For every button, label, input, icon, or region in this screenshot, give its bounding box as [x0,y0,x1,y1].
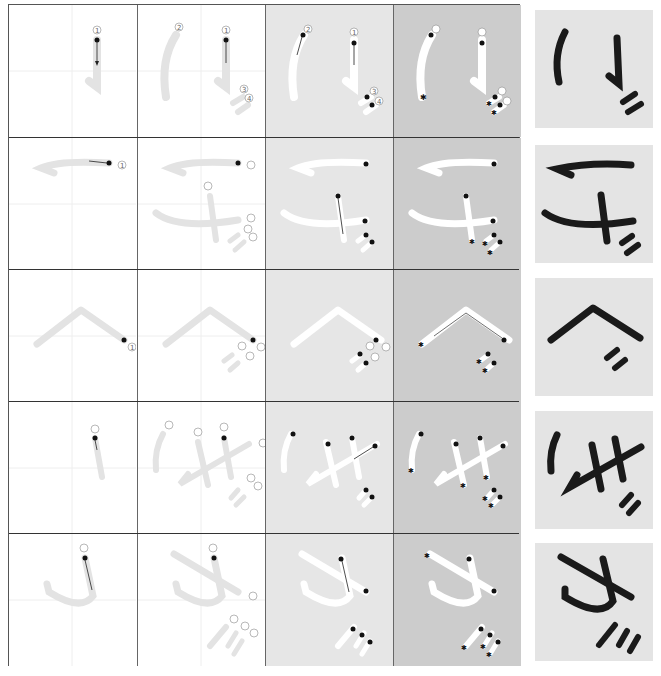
svg-text:3: 3 [372,88,376,96]
cell-end-marked-guide: ✱✱✱ [393,5,521,137]
svg-text:✱: ✱ [418,341,424,349]
cell-end-marked-guide: ✱✱✱ [393,270,521,402]
cell-first-stroke: 1 [9,270,137,402]
svg-text:1: 1 [352,29,356,37]
cell-direction-guide [265,138,393,270]
svg-text:✱: ✱ [408,467,414,475]
char-row-3: 1 ✱✱✱ [9,269,519,401]
cell-direction-guide: 2 1 3 4 [265,5,393,137]
final-character-1 [535,10,653,128]
svg-text:✱: ✱ [488,502,494,510]
cell-all-strokes [137,402,265,534]
svg-text:2: 2 [177,24,181,32]
stroke-order-grid: 1 1 2 3 4 2 1 [8,4,520,666]
svg-text:✱: ✱ [482,367,488,375]
cell-direction-guide [265,270,393,402]
svg-text:2: 2 [306,26,310,34]
cell-first-stroke [9,402,137,534]
cell-direction-guide [265,534,393,666]
cell-all-strokes [137,138,265,270]
svg-text:✱: ✱ [483,474,489,482]
svg-text:✱: ✱ [487,249,493,257]
cell-end-marked-guide: ✱✱✱✱ [393,534,521,666]
svg-text:✱: ✱ [424,552,430,560]
cell-end-marked-guide: ✱✱✱ [393,138,521,270]
char-row-5: ✱✱✱✱ [9,533,519,665]
cell-direction-guide [265,402,393,534]
svg-text:1: 1 [95,27,99,35]
svg-text:✱: ✱ [420,93,427,102]
char-row-2: 1 [9,137,519,269]
cell-first-stroke: 1 [9,138,137,270]
cell-first-stroke: 1 [9,5,137,137]
svg-text:✱: ✱ [482,240,488,248]
svg-text:✱: ✱ [476,358,482,366]
svg-text:4: 4 [247,95,252,103]
svg-text:✱: ✱ [486,100,492,108]
svg-text:1: 1 [130,344,134,352]
svg-text:✱: ✱ [469,238,475,246]
final-character-4 [535,411,653,529]
svg-text:1: 1 [120,162,124,170]
char-row-1: 1 1 2 3 4 2 1 [9,5,519,137]
svg-text:3: 3 [242,86,246,94]
svg-text:1: 1 [224,27,228,35]
cell-all-strokes: 1 2 3 4 [137,5,265,137]
svg-text:✱: ✱ [486,651,492,659]
svg-text:✱: ✱ [491,109,497,117]
svg-text:✱: ✱ [461,644,467,652]
char-row-4: ✱✱✱✱✱ [9,401,519,533]
cell-first-stroke [9,534,137,666]
cell-end-marked-guide: ✱✱✱✱✱ [393,402,521,534]
cell-all-strokes [137,534,265,666]
svg-text:✱: ✱ [460,482,466,490]
svg-text:✱: ✱ [480,643,486,651]
final-character-3 [535,278,653,396]
cell-all-strokes [137,270,265,402]
final-character-2 [535,145,653,263]
svg-text:4: 4 [377,98,382,106]
final-character-5 [535,543,653,661]
